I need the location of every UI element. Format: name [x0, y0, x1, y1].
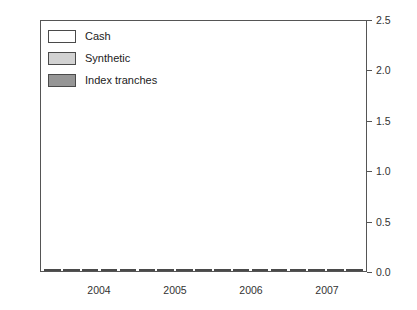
y-tick-label: 1.5 — [376, 116, 391, 127]
bar-group — [345, 21, 364, 271]
bar-segment-synthetic — [252, 270, 260, 271]
y-tick-mark — [367, 121, 372, 122]
bar-index-tranches — [279, 269, 287, 271]
bar-stacked-cash-synthetic — [233, 269, 241, 271]
bar-index-tranches — [109, 269, 117, 271]
bar-segment-synthetic — [139, 270, 147, 271]
y-tick-mark — [367, 20, 372, 21]
bar-segment-index-tranches — [128, 269, 136, 271]
y-tick-mark — [367, 171, 372, 172]
bar-stacked-cash-synthetic — [44, 269, 52, 271]
bar-segment-index-tranches — [336, 269, 344, 271]
bar-stacked-cash-synthetic — [346, 269, 354, 271]
bar-segment-synthetic — [327, 270, 335, 271]
bar-segment-index-tranches — [166, 269, 174, 271]
bar-segment-index-tranches — [52, 269, 60, 271]
y-tick-mark — [367, 222, 372, 223]
legend-label: Index tranches — [85, 75, 157, 86]
bar-index-tranches — [203, 269, 211, 271]
y-tick-label: 2.5 — [376, 15, 391, 26]
bar-group — [326, 21, 345, 271]
bar-segment-index-tranches — [222, 269, 230, 271]
x-tick-label: 2007 — [315, 284, 338, 296]
bar-segment-index-tranches — [203, 269, 211, 271]
bar-segment-synthetic — [82, 270, 90, 271]
bar-segment-synthetic — [120, 270, 128, 271]
bar-segment-synthetic — [233, 270, 241, 271]
bar-index-tranches — [317, 269, 325, 271]
chart-figure: 0.00.51.01.52.02.5 2004200520062007 Cash… — [0, 0, 417, 310]
x-tick-label: 2006 — [239, 284, 262, 296]
bar-segment-index-tranches — [279, 269, 287, 271]
bar-segment-synthetic — [195, 270, 203, 271]
bar-stacked-cash-synthetic — [120, 269, 128, 271]
legend-item: Synthetic — [48, 52, 157, 65]
x-tick-label: 2004 — [87, 284, 110, 296]
bar-index-tranches — [71, 269, 79, 271]
bar-segment-index-tranches — [354, 269, 362, 271]
bar-index-tranches — [90, 269, 98, 271]
bar-segment-synthetic — [101, 270, 109, 271]
bar-index-tranches — [52, 269, 60, 271]
bar-stacked-cash-synthetic — [327, 269, 335, 271]
legend-label: Cash — [85, 31, 111, 42]
bar-index-tranches — [336, 269, 344, 271]
bar-segment-synthetic — [44, 270, 52, 271]
bar-group — [194, 21, 213, 271]
y-tick-label: 0.5 — [376, 217, 391, 228]
bar-segment-index-tranches — [241, 269, 249, 271]
bar-index-tranches — [354, 269, 362, 271]
bar-segment-index-tranches — [185, 269, 193, 271]
y-tick-label: 0.0 — [376, 267, 391, 278]
bar-index-tranches — [166, 269, 174, 271]
bar-segment-synthetic — [308, 270, 316, 271]
bar-segment-synthetic — [271, 270, 279, 271]
bar-index-tranches — [260, 269, 268, 271]
bar-stacked-cash-synthetic — [252, 269, 260, 271]
bar-segment-index-tranches — [109, 269, 117, 271]
bar-group — [307, 21, 326, 271]
legend-item: Index tranches — [48, 74, 157, 87]
legend: CashSyntheticIndex tranches — [48, 30, 157, 87]
bar-segment-synthetic — [157, 270, 165, 271]
bar-stacked-cash-synthetic — [214, 269, 222, 271]
bar-stacked-cash-synthetic — [195, 269, 203, 271]
bar-group — [251, 21, 270, 271]
bar-segment-synthetic — [290, 270, 298, 271]
bar-stacked-cash-synthetic — [308, 269, 316, 271]
legend-swatch-cash-icon — [48, 30, 76, 43]
bar-stacked-cash-synthetic — [290, 269, 298, 271]
legend-swatch-syn-icon — [48, 52, 76, 65]
y-tick-label: 1.0 — [376, 166, 391, 177]
legend-item: Cash — [48, 30, 157, 43]
bar-segment-index-tranches — [260, 269, 268, 271]
bar-index-tranches — [185, 269, 193, 271]
bar-index-tranches — [222, 269, 230, 271]
bar-segment-index-tranches — [147, 269, 155, 271]
bar-index-tranches — [298, 269, 306, 271]
bar-segment-synthetic — [63, 270, 71, 271]
bar-segment-synthetic — [176, 270, 184, 271]
bar-group — [232, 21, 251, 271]
bar-segment-index-tranches — [90, 269, 98, 271]
bar-stacked-cash-synthetic — [101, 269, 109, 271]
bar-segment-synthetic — [214, 270, 222, 271]
y-tick-label: 2.0 — [376, 65, 391, 76]
bar-segment-synthetic — [346, 270, 354, 271]
x-tick-label: 2005 — [163, 284, 186, 296]
bar-stacked-cash-synthetic — [176, 269, 184, 271]
bar-group — [213, 21, 232, 271]
bar-group — [288, 21, 307, 271]
bar-group — [270, 21, 289, 271]
bar-segment-index-tranches — [71, 269, 79, 271]
x-axis: 2004200520062007 — [40, 276, 367, 306]
bar-segment-index-tranches — [298, 269, 306, 271]
bar-stacked-cash-synthetic — [63, 269, 71, 271]
bar-group — [156, 21, 175, 271]
bar-stacked-cash-synthetic — [157, 269, 165, 271]
bar-stacked-cash-synthetic — [139, 269, 147, 271]
y-tick-mark — [367, 70, 372, 71]
bar-group — [175, 21, 194, 271]
legend-label: Synthetic — [85, 53, 130, 64]
bar-index-tranches — [128, 269, 136, 271]
